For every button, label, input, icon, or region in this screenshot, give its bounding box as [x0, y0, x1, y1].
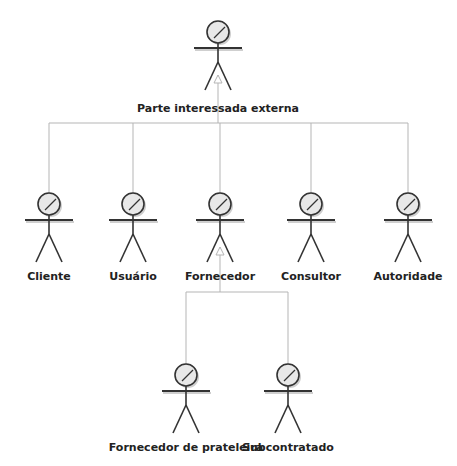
actor-head-icon: [122, 193, 144, 215]
actor-head-icon: [300, 193, 322, 215]
actor-head-icon: [209, 193, 231, 215]
actor-head-icon: [38, 193, 60, 215]
actor-label-consultor: Consultor: [281, 270, 341, 283]
actor-consultor[interactable]: [287, 193, 336, 262]
actor-label-fornecedor-de-prateleira: Fornecedor de prateleira: [109, 441, 263, 454]
actor-head-icon: [207, 21, 229, 43]
actor-label-autoridade: Autoridade: [374, 270, 443, 283]
actor-head-icon: [175, 364, 197, 386]
actor-label-parte-interessada-externa: Parte interessada externa: [137, 102, 299, 115]
actor-usuario[interactable]: [109, 193, 158, 262]
actor-label-cliente: Cliente: [27, 270, 71, 283]
actor-head-icon: [397, 193, 419, 215]
actors-layer: [25, 21, 433, 433]
actor-fornecedor-de-prateleira[interactable]: [162, 364, 211, 433]
actor-autoridade[interactable]: [384, 193, 433, 262]
generalization-parte-interessada-externa: [49, 75, 408, 193]
actor-subcontratado[interactable]: [264, 364, 313, 433]
actor-label-fornecedor: Fornecedor: [185, 270, 255, 283]
actor-label-subcontratado: Subcontratado: [242, 441, 334, 454]
actor-head-icon: [277, 364, 299, 386]
actor-cliente[interactable]: [25, 193, 74, 262]
diagram-canvas: [0, 0, 457, 466]
actor-label-usuario: Usuário: [109, 270, 157, 283]
generalization-fornecedor: [186, 247, 288, 364]
